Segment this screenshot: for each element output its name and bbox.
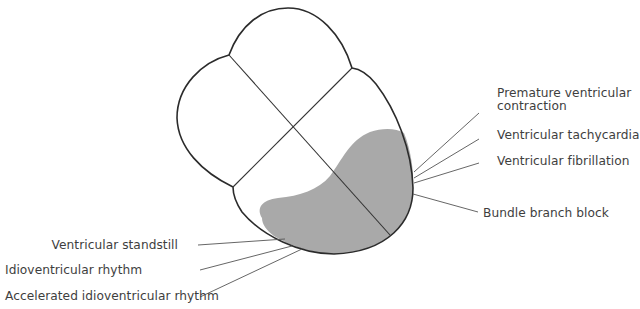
label-idioventricular-rhythm: Idioventricular rhythm xyxy=(5,264,142,277)
leader-line-vf xyxy=(414,163,479,183)
leader-line-pvc xyxy=(414,113,479,172)
label-pvc-line2: contraction xyxy=(497,100,631,113)
label-ventricular-tachycardia: Ventricular tachycardia xyxy=(497,129,640,142)
leader-line-vt xyxy=(414,139,479,178)
label-premature-ventricular-contraction: Premature ventricular contraction xyxy=(497,87,631,113)
atrioventricular-divider xyxy=(233,68,352,187)
label-bundle-branch-block: Bundle branch block xyxy=(483,207,609,220)
leader-line-bbb xyxy=(413,194,478,212)
leader-line-vs xyxy=(198,239,285,245)
leader-line-ir xyxy=(200,246,292,270)
label-ventricular-standstill: Ventricular standstill xyxy=(52,239,178,252)
label-ventricular-fibrillation: Ventricular fibrillation xyxy=(497,155,630,168)
label-accelerated-idioventricular-rhythm: Accelerated idioventricular rhythm xyxy=(5,290,219,303)
